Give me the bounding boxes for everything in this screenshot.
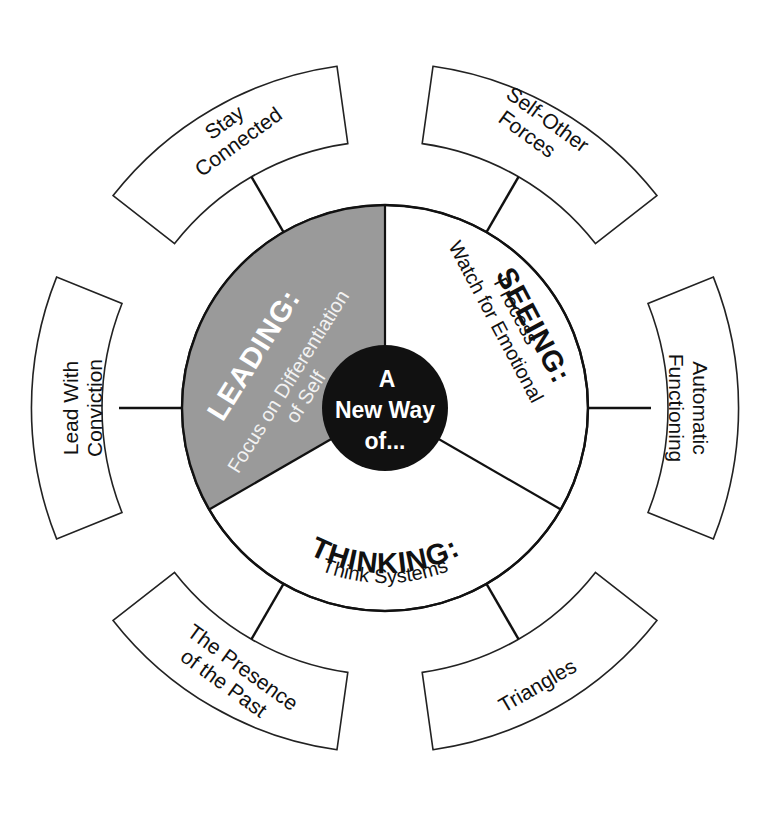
new-way-of-diagram: A New Way of... LEADING: Focus on Differ…: [0, 0, 765, 816]
svg-text:Functioning: Functioning: [665, 354, 688, 463]
svg-text:Automatic: Automatic: [689, 361, 712, 454]
center-line-2: New Way: [335, 397, 435, 423]
center-line-3: of...: [365, 428, 406, 454]
center-line-1: A: [379, 366, 396, 392]
svg-text:Conviction: Conviction: [83, 359, 106, 457]
lead-with-conviction-label: Lead With Conviction: [59, 359, 106, 457]
svg-text:Lead With: Lead With: [59, 361, 82, 456]
automatic-functioning-label: Automatic Functioning: [665, 354, 712, 463]
outer-box-triangles: [422, 572, 657, 749]
